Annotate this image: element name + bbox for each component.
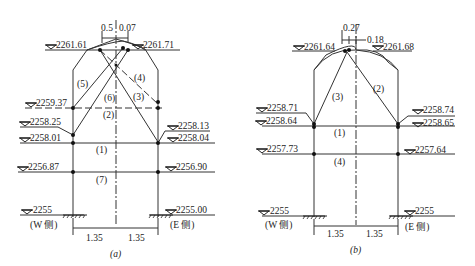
diagram-b: 0.27 0.18 2261.64 2261.68 (1) (2) (3) (4…: [255, 23, 455, 256]
caption-a: (a): [110, 249, 121, 260]
elev-a-top-right: 2261.71: [143, 40, 174, 50]
elev-b-w3: 2257.73: [267, 144, 298, 154]
elev-b-e2: 2258.65: [423, 118, 454, 128]
w-side-a: (W 侧): [30, 219, 58, 231]
span-a-right: 1.35: [128, 233, 145, 243]
elev-b-w1: 2258.71: [267, 103, 298, 113]
tunnel-deformation-diagrams: 0.5 0.07 2261.61 2261.71: [0, 0, 475, 266]
span-b-left: 1.35: [327, 229, 344, 239]
elev-a-top-left: 2261.61: [56, 40, 87, 50]
caption-b: (b): [350, 245, 361, 256]
label-b-4: (4): [334, 157, 345, 168]
elev-a-e3: 2256.90: [176, 162, 207, 172]
elev-b-e-base: 2255: [415, 206, 434, 216]
span-a-left: 1.35: [86, 233, 103, 243]
elev-b-w-base: 2255: [270, 206, 289, 216]
line-a-6: [73, 50, 128, 135]
elev-a-e-base: 2255.00: [176, 205, 207, 215]
label-a-2: (2): [103, 110, 114, 121]
dim-b-left: 0.27: [343, 23, 360, 33]
label-b-1: (1): [334, 128, 345, 139]
label-a-5: (5): [77, 79, 88, 90]
elev-a-e2: 2258.04: [178, 133, 209, 143]
label-a-6: (6): [104, 93, 115, 104]
elev-b-e1: 2258.74: [423, 105, 454, 115]
dim-b-right: 0.18: [367, 35, 384, 45]
elev-b-w2: 2258.64: [266, 116, 297, 126]
diagram-a: 0.5 0.07 2261.61 2261.71: [17, 20, 215, 260]
label-b-3: (3): [332, 92, 343, 103]
label-b-2: (2): [373, 84, 384, 95]
elev-a-w2: 2258.25: [30, 117, 61, 127]
elev-a-w1: 2259.37: [36, 98, 67, 108]
e-side-a: (E 侧): [170, 219, 195, 231]
span-b-right: 1.35: [366, 229, 383, 239]
dim-a-left: 0.5: [101, 23, 113, 33]
dim-a-right: 0.07: [119, 23, 136, 33]
e-side-b: (E 侧): [405, 221, 430, 233]
line-b-3: [314, 52, 347, 124]
label-a-4: (4): [134, 73, 145, 84]
label-a-1: (1): [96, 145, 107, 156]
elev-b-e3: 2257.64: [415, 145, 446, 155]
elev-a-w3: 2258.01: [30, 133, 61, 143]
w-side-b: (W 侧): [265, 219, 293, 231]
elev-a-w-base: 2255: [33, 205, 52, 215]
elev-a-w4: 2256.87: [28, 162, 59, 172]
label-a-3: (3): [133, 92, 144, 103]
elev-a-e1: 2258.13: [178, 121, 209, 131]
label-a-7: (7): [96, 175, 107, 186]
